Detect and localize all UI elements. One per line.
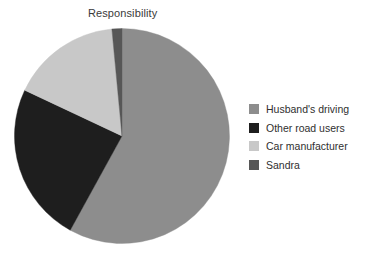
legend-item: Sandra — [249, 156, 369, 175]
chart-title: Responsibility — [88, 7, 228, 19]
legend-swatch-icon — [249, 104, 259, 114]
legend-item-label: Car manufacturer — [266, 141, 348, 152]
pie-chart-plot-area — [14, 28, 230, 244]
legend-item: Husband's driving — [249, 100, 369, 119]
pie-svg — [14, 28, 230, 244]
pie-slice-group — [14, 29, 229, 244]
legend-item: Other road users — [249, 119, 369, 138]
pie-chart-figure: Responsibility Husband's drivingOther ro… — [0, 0, 372, 259]
legend-item: Car manufacturer — [249, 137, 369, 156]
legend-swatch-icon — [249, 141, 259, 151]
legend-swatch-icon — [249, 160, 259, 170]
legend-item-label: Husband's driving — [266, 104, 349, 115]
chart-legend: Husband's drivingOther road usersCar man… — [249, 100, 369, 174]
legend-item-label: Other road users — [266, 123, 345, 134]
legend-item-label: Sandra — [266, 160, 300, 171]
legend-swatch-icon — [249, 123, 259, 133]
